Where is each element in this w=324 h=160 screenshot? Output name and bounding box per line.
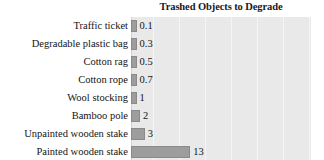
bar-chart: Trashed Objects to Degrade Traffic ticke… [0, 0, 324, 160]
category-label: Degradable plastic bag [32, 35, 128, 53]
bar-row: Unpainted wooden stake3 [0, 125, 324, 143]
category-label: Bamboo pole [72, 107, 128, 125]
category-label: Wool stocking [67, 89, 128, 107]
category-label: Painted wooden stake [36, 143, 128, 160]
bar [131, 110, 140, 122]
bar-row: Cotton rope0.7 [0, 71, 324, 89]
bar-row: Painted wooden stake13 [0, 143, 324, 160]
bar-value-label: 0.5 [140, 53, 153, 71]
category-label: Cotton rag [83, 53, 128, 71]
bar [131, 92, 137, 104]
bar-row: Wool stocking1 [0, 89, 324, 107]
bar-value-label: 0.3 [140, 35, 153, 53]
bar-value-label: 2 [143, 107, 148, 125]
bar [131, 38, 137, 50]
bar-value-label: 1 [140, 89, 145, 107]
bar [131, 128, 145, 140]
bar-row: Traffic ticket0.1 [0, 17, 324, 35]
category-label: Cotton rope [78, 71, 128, 89]
bar [131, 56, 137, 68]
bar-row: Cotton rag0.5 [0, 53, 324, 71]
bar [131, 146, 190, 158]
bar [131, 74, 137, 86]
bar-row: Degradable plastic bag0.3 [0, 35, 324, 53]
category-label: Traffic ticket [73, 17, 128, 35]
bar-value-label: 3 [148, 125, 153, 143]
category-label: Unpainted wooden stake [24, 125, 128, 143]
bar-row: Bamboo pole2 [0, 107, 324, 125]
bar-rows: Traffic ticket0.1Degradable plastic bag0… [0, 17, 324, 160]
bar-value-label: 13 [193, 143, 204, 160]
chart-title: Trashed Objects to Degrade [131, 1, 311, 12]
bar-value-label: 0.7 [140, 71, 153, 89]
bar [131, 20, 137, 32]
bar-value-label: 0.1 [140, 17, 153, 35]
